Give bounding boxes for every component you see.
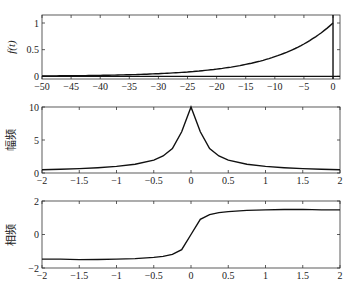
x-tick-label: −5	[299, 81, 310, 92]
x-tick-label: 1.5	[297, 175, 310, 186]
y-tick-label: 0	[34, 71, 39, 82]
x-tick-label: −0.5	[145, 270, 163, 281]
x-tick-label: −35	[121, 81, 137, 92]
x-tick-label: 0	[189, 175, 194, 186]
x-tick-label: 1	[263, 175, 268, 186]
subplot-3: −2−1.5−1−0.500.511.52−202相频	[4, 196, 343, 282]
axes-frame	[42, 15, 340, 79]
x-tick-label: −1.5	[70, 270, 88, 281]
x-tick-label: −30	[151, 81, 167, 92]
x-tick-label: 2	[338, 175, 343, 186]
series-line-amplitude	[42, 107, 340, 170]
y-tick-label: 0.5	[27, 44, 40, 55]
x-tick-label: −1.5	[70, 175, 88, 186]
subplot-2: −2−1.5−1−0.500.511.520510幅频	[4, 102, 343, 187]
x-tick-label: −40	[92, 81, 108, 92]
y-axis-label: f(t)	[5, 40, 18, 54]
y-tick-label: 1	[34, 18, 39, 29]
x-tick-label: −25	[180, 81, 196, 92]
x-tick-label: 0	[331, 81, 336, 92]
y-tick-label: 10	[29, 102, 39, 113]
x-tick-label: 0	[189, 270, 194, 281]
y-axis-label: 相频	[4, 224, 17, 246]
x-tick-label: −15	[238, 81, 254, 92]
x-tick-label: −1	[111, 270, 122, 281]
x-tick-label: −10	[267, 81, 283, 92]
series-line-phase	[42, 209, 340, 259]
x-tick-label: 0.5	[222, 270, 235, 281]
x-tick-label: 1	[263, 270, 268, 281]
chart-figure: −50−45−40−35−30−25−20−15−10−5000.51f(t)−…	[0, 0, 350, 289]
series-line-f(t)	[42, 23, 333, 76]
x-tick-label: −50	[34, 81, 50, 92]
x-tick-label: −0.5	[145, 175, 163, 186]
subplot-1: −50−45−40−35−30−25−20−15−10−5000.51f(t)	[5, 15, 340, 92]
x-tick-label: 2	[338, 270, 343, 281]
x-tick-label: 1.5	[297, 270, 310, 281]
y-tick-label: −2	[28, 263, 39, 274]
y-tick-label: 0	[34, 168, 39, 179]
y-tick-label: 5	[34, 135, 39, 146]
y-tick-label: 2	[34, 196, 39, 207]
x-tick-label: −45	[63, 81, 79, 92]
y-axis-label: 幅频	[4, 129, 17, 151]
y-tick-label: 0	[34, 229, 39, 240]
x-tick-label: 0.5	[222, 175, 235, 186]
x-tick-label: −20	[209, 81, 225, 92]
x-tick-label: −1	[111, 175, 122, 186]
axes-frame	[42, 107, 340, 173]
